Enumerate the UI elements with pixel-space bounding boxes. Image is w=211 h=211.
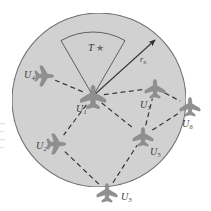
node-label-u6: U6 xyxy=(182,119,193,129)
diagram-canvas xyxy=(0,0,211,211)
target-label: T★ xyxy=(88,43,104,54)
node-label-symbol: U xyxy=(24,69,31,80)
scan-artifacts xyxy=(0,123,5,148)
node-label-subscript: 1 xyxy=(84,108,87,115)
node-label-subscript: 2 xyxy=(44,145,47,152)
radius-subscript: n xyxy=(143,59,146,65)
radius-label: rn xyxy=(140,56,146,64)
uav-coverage-diagram: T★ rn U1U4U2U3U5U7U6 xyxy=(0,0,211,211)
node-label-subscript: 3 xyxy=(129,196,132,203)
node-label-u4: U4 xyxy=(24,70,35,80)
node-label-symbol: U xyxy=(121,191,128,202)
node-label-symbol: U xyxy=(140,99,147,110)
node-label-symbol: U xyxy=(150,146,157,157)
target-star-icon: ★ xyxy=(96,43,104,53)
node-label-subscript: 5 xyxy=(158,151,161,158)
node-label-u2: U2 xyxy=(36,141,47,151)
node-label-symbol: U xyxy=(76,103,83,114)
node-label-subscript: 7 xyxy=(148,104,151,111)
node-label-u5: U5 xyxy=(150,147,161,157)
node-label-u7: U7 xyxy=(140,100,151,110)
target-letter: T xyxy=(88,42,94,53)
node-label-subscript: 4 xyxy=(32,74,35,81)
node-label-symbol: U xyxy=(182,118,189,129)
node-label-u1: U1 xyxy=(76,104,87,114)
node-label-symbol: U xyxy=(36,140,43,151)
node-label-u3: U3 xyxy=(121,192,132,202)
node-label-subscript: 6 xyxy=(190,123,193,130)
